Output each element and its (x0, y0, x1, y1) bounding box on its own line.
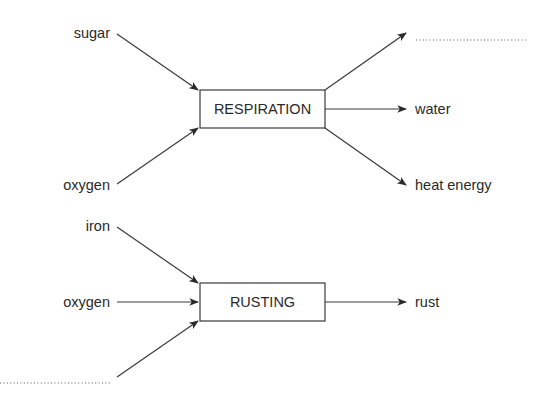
respiration-label: RESPIRATION (214, 101, 311, 117)
input-label-sugar: sugar (74, 25, 110, 41)
arrow-oxygen-to-respiration (117, 128, 198, 184)
arrow-respiration-to-blank (325, 33, 406, 90)
arrow-iron-to-rusting (117, 227, 198, 283)
arrow-blank-to-rusting (117, 321, 198, 377)
input-label-oxygen: oxygen (63, 177, 110, 193)
output-label-rust: rust (415, 294, 439, 310)
input-label-oxygen-rusting: oxygen (63, 294, 110, 310)
arrow-respiration-to-heat-energy (325, 128, 406, 185)
output-label-heat-energy: heat energy (415, 177, 492, 193)
flow-diagram: sugar oxygen RESPIRATION water heat ener… (0, 0, 550, 405)
arrow-sugar-to-respiration (117, 34, 198, 90)
rusting-diagram: iron oxygen RUSTING rust (0, 218, 439, 383)
input-label-iron: iron (86, 218, 110, 234)
rusting-label: RUSTING (230, 294, 295, 310)
output-label-water: water (414, 101, 451, 117)
respiration-diagram: sugar oxygen RESPIRATION water heat ener… (63, 25, 528, 193)
